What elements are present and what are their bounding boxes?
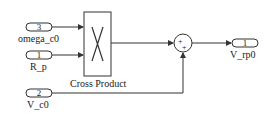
inport-1-number: 1: [26, 51, 52, 59]
simulink-diagram-canvas: 3 1 2 omega_c0 R_p V_c0 Cross Product + …: [0, 0, 274, 120]
outport-1-label: V_rp0: [230, 50, 256, 60]
inport-3-label: omega_c0: [18, 34, 59, 44]
cross-product-label: Cross Product: [70, 79, 126, 89]
outport-1-number: 1: [232, 39, 258, 47]
sum-sign-bottom: +: [182, 43, 187, 53]
inport-1-label: R_p: [30, 62, 47, 72]
inport-3-number: 3: [26, 23, 52, 31]
inport-2-number: 2: [26, 89, 52, 97]
inport-2-label: V_c0: [27, 100, 49, 110]
